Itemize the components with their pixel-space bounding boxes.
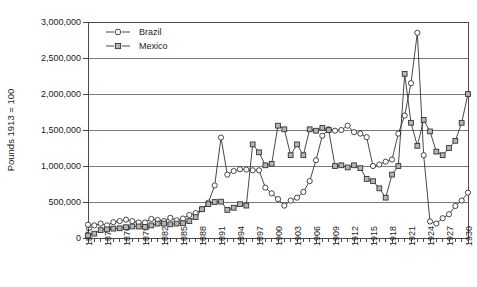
data-point-mexico-1893 [231, 205, 236, 210]
y-tick-label-5: 2,500,000 [41, 53, 81, 63]
data-point-mexico-1875 [117, 226, 122, 231]
data-point-brazil-1926 [440, 216, 445, 221]
data-point-mexico-1883 [168, 222, 173, 227]
y-tick-label-0: 0 [76, 233, 81, 243]
data-point-mexico-1907 [320, 125, 325, 130]
data-point-brazil-1877 [130, 218, 135, 223]
data-point-mexico-1901 [282, 127, 287, 132]
data-point-brazil-1905 [307, 179, 312, 184]
data-point-brazil-1893 [231, 168, 236, 173]
data-point-brazil-1880 [149, 216, 154, 221]
data-point-mexico-1871 [92, 231, 97, 236]
data-point-brazil-1928 [453, 203, 458, 208]
x-tick-label-5: 1885 [179, 226, 189, 246]
x-tick-label-6: 1888 [198, 226, 208, 246]
data-point-mexico-1913 [358, 166, 363, 171]
x-tick-label-8: 1894 [236, 226, 246, 246]
x-tick-label-19: 1927 [445, 226, 455, 246]
data-point-mexico-1914 [364, 177, 369, 182]
y-tick-label-3: 1,500,000 [41, 125, 81, 135]
data-point-mexico-1908 [326, 128, 331, 133]
data-point-mexico-1917 [383, 195, 388, 200]
data-point-mexico-1915 [371, 179, 376, 184]
x-tick-label-20: 1930 [464, 226, 474, 246]
data-point-mexico-1896 [250, 142, 255, 147]
data-point-mexico-1906 [314, 128, 319, 133]
data-point-brazil-1871 [92, 223, 97, 228]
legend-item-brazil[interactable]: Brazil [106, 27, 162, 37]
data-point-mexico-1922 [415, 143, 420, 148]
y-tick-label-4: 2,000,000 [41, 89, 81, 99]
gridlines [88, 22, 468, 238]
data-point-mexico-1895 [244, 203, 249, 208]
y-tick-label-2: 1,000,000 [41, 161, 81, 171]
data-point-brazil-1922 [415, 30, 420, 35]
data-point-mexico-1872 [98, 228, 103, 233]
data-point-mexico-1929 [459, 120, 464, 125]
data-point-brazil-1891 [218, 135, 223, 140]
data-point-brazil-1876 [123, 217, 128, 222]
data-point-mexico-1898 [263, 163, 268, 168]
data-point-mexico-1889 [206, 202, 211, 207]
data-point-brazil-1916 [377, 162, 382, 167]
data-point-brazil-1886 [187, 212, 192, 217]
data-point-brazil-1914 [364, 135, 369, 140]
data-point-brazil-1918 [389, 157, 394, 162]
data-point-brazil-1917 [383, 159, 388, 164]
data-point-mexico-1900 [276, 123, 281, 128]
data-point-mexico-1876 [124, 225, 129, 230]
data-point-brazil-1927 [446, 212, 451, 217]
legend-label-brazil: Brazil [139, 27, 162, 37]
chart-legend: BrazilMexico [106, 27, 168, 51]
legend-marker-circle [115, 29, 121, 35]
data-point-mexico-1911 [345, 165, 350, 170]
data-point-brazil-1894 [237, 167, 242, 172]
x-tick-label-16: 1918 [388, 226, 398, 246]
data-point-mexico-1880 [149, 223, 154, 228]
data-point-brazil-1906 [313, 158, 318, 163]
data-point-mexico-1884 [174, 221, 179, 226]
data-point-brazil-1874 [111, 220, 116, 225]
data-point-mexico-1885 [181, 221, 186, 226]
x-axis-tick-labels: 1870187318761879188218851888189118941897… [84, 226, 474, 246]
data-point-brazil-1895 [244, 167, 249, 172]
data-point-mexico-1881 [155, 221, 160, 226]
data-point-brazil-1890 [212, 183, 217, 188]
y-tick-label-1: 500,000 [48, 197, 81, 207]
y-tick-label-6: 3,000,000 [41, 17, 81, 27]
data-point-brazil-1903 [294, 195, 299, 200]
data-point-brazil-1904 [301, 189, 306, 194]
data-point-brazil-1915 [370, 163, 375, 168]
data-point-brazil-1899 [269, 191, 274, 196]
data-point-brazil-1909 [332, 128, 337, 133]
legend-item-mexico[interactable]: Mexico [106, 41, 168, 51]
data-point-brazil-1875 [117, 218, 122, 223]
data-point-brazil-1921 [408, 81, 413, 86]
legend-marker-square [115, 43, 120, 48]
x-tick-label-11: 1903 [293, 226, 303, 246]
data-series-layer [85, 30, 470, 238]
data-point-mexico-1920 [402, 71, 407, 76]
data-point-brazil-1901 [282, 203, 287, 208]
data-point-mexico-1909 [333, 164, 338, 169]
data-point-mexico-1879 [143, 224, 148, 229]
chart-container: Pounds 1913 = 100 0500,0001,000,0001,500… [0, 0, 477, 287]
data-point-brazil-1872 [98, 221, 103, 226]
data-point-mexico-1926 [440, 153, 445, 158]
series-mexico [86, 71, 471, 237]
data-point-brazil-1920 [402, 113, 407, 118]
data-point-brazil-1924 [427, 219, 432, 224]
series-line-mexico [88, 74, 468, 236]
data-point-mexico-1919 [396, 164, 401, 169]
data-point-mexico-1891 [219, 199, 224, 204]
data-point-mexico-1910 [339, 163, 344, 168]
data-point-mexico-1923 [421, 118, 426, 123]
x-tick-label-7: 1891 [217, 226, 227, 246]
data-point-brazil-1892 [225, 172, 230, 177]
x-tick-label-18: 1924 [426, 226, 436, 246]
data-point-brazil-1897 [256, 168, 261, 173]
x-tick-label-12: 1906 [312, 226, 322, 246]
data-point-mexico-1877 [130, 224, 135, 229]
data-point-brazil-1925 [434, 221, 439, 226]
data-point-brazil-1883 [168, 215, 173, 220]
